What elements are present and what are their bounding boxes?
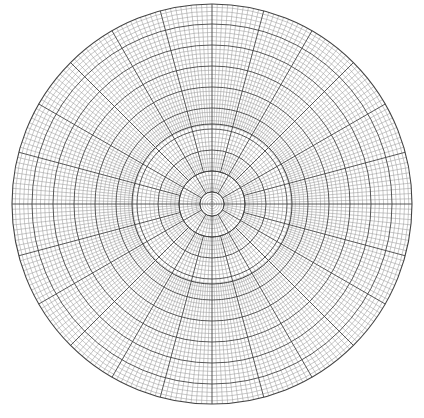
center-disk (200, 192, 224, 216)
polar-grid (0, 0, 424, 418)
